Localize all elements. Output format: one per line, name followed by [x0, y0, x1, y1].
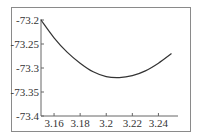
y-tick-label: -73.3 [16, 62, 39, 74]
y-tick-label: -73.4 [16, 110, 39, 122]
x-tick-label: 3.18 [71, 117, 91, 129]
y-tick-label: -73.25 [11, 38, 40, 50]
data-line [41, 20, 171, 78]
y-tick-label: -73.2 [16, 14, 39, 26]
x-ticks: 3.163.183.23.223.24 [44, 113, 168, 129]
x-tick-label: 3.24 [149, 117, 169, 129]
y-tick-label: -73.35 [11, 86, 40, 98]
x-tick-label: 3.2 [99, 117, 113, 129]
y-ticks: -73.2-73.25-73.3-73.35-73.4 [11, 14, 44, 122]
line-chart: -73.2-73.25-73.3-73.35-73.4 3.163.183.23… [0, 0, 197, 137]
x-tick-label: 3.22 [123, 117, 142, 129]
x-tick-label: 3.16 [44, 117, 64, 129]
